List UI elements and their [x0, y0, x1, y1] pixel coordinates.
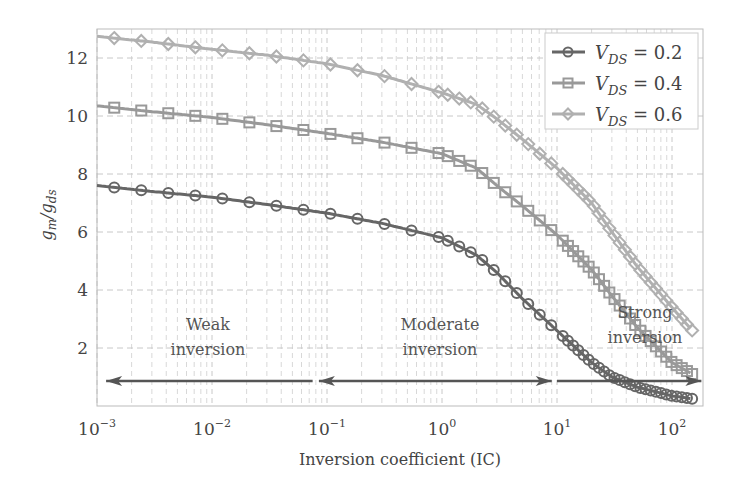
annotation-label: Weak	[186, 315, 230, 334]
chart: WeakinversionModerateinversionStronginve…	[0, 0, 743, 493]
legend: VDS = 0.2VDS = 0.4VDS = 0.6	[545, 33, 698, 129]
x-tick-label: 10−3	[78, 417, 116, 439]
x-tick-label: 10−1	[308, 417, 346, 439]
x-tick-label: 101	[543, 417, 572, 439]
annotation-label: inversion	[403, 340, 478, 359]
annotation-label: inversion	[608, 328, 683, 347]
y-tick-label: 6	[77, 222, 88, 242]
x-tick-label: 102	[658, 417, 687, 439]
annotation-label: inversion	[171, 340, 246, 359]
y-axis-title: gm/gds	[37, 189, 59, 240]
x-axis-ticks: 10−310−210−1100101102	[78, 417, 686, 439]
y-tick-label: 8	[77, 164, 88, 184]
y-tick-label: 2	[77, 338, 88, 358]
series-circle	[97, 182, 697, 403]
y-axis-ticks: 24681012	[66, 48, 88, 358]
y-tick-label: 12	[66, 48, 88, 68]
svg-text:gm/gds: gm/gds	[37, 189, 59, 240]
x-tick-label: 10−2	[193, 417, 231, 439]
y-tick-label: 10	[66, 106, 88, 126]
annotation-label: Moderate	[401, 315, 480, 334]
x-tick-label: 100	[428, 417, 457, 439]
y-tick-label: 4	[77, 280, 88, 300]
annotation-label: Strong	[617, 303, 672, 322]
x-axis-title: Inversion coefficient (IC)	[299, 450, 501, 469]
